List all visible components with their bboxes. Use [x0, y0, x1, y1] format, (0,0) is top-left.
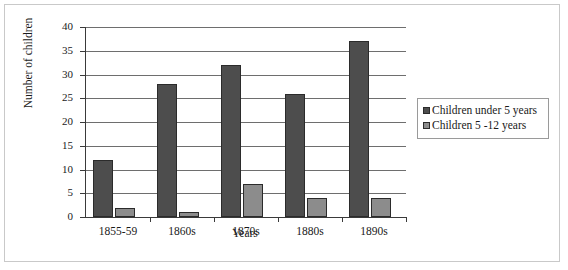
y-axis-tick-label: 25: [43, 92, 73, 103]
y-axis-tick-label: 40: [43, 21, 73, 32]
legend-swatch-icon: [423, 122, 430, 129]
chart-frame: Number of children 4035302520151050 1855…: [4, 4, 560, 262]
chart-legend: Children under 5 years Children 5 -12 ye…: [417, 98, 549, 139]
x-axis-tick-mark: [150, 217, 151, 222]
x-axis-tick-mark: [214, 217, 215, 222]
bar: [307, 198, 327, 217]
bar: [285, 94, 305, 218]
plot-area: 1855-591860s1870s1880s1890s: [85, 27, 406, 218]
bar: [349, 41, 369, 217]
x-axis-title: Years: [85, 227, 405, 239]
y-axis-tick-label: 15: [43, 140, 73, 151]
bar: [371, 198, 391, 217]
bar: [93, 160, 113, 217]
bar: [115, 208, 135, 218]
y-axis-title: Number of children: [22, 0, 34, 138]
y-axis-tick-label: 35: [43, 45, 73, 56]
legend-item-label: Children under 5 years: [432, 103, 537, 118]
y-axis-tick-label: 30: [43, 69, 73, 80]
y-axis-tick-label: 0: [43, 211, 73, 222]
bar: [157, 84, 177, 217]
x-axis-tick-mark: [278, 217, 279, 222]
legend-item: Children under 5 years: [423, 103, 543, 118]
gridline: [86, 27, 406, 28]
legend-item-label: Children 5 -12 years: [432, 118, 526, 133]
bar: [243, 184, 263, 217]
legend-item: Children 5 -12 years: [423, 118, 543, 133]
x-axis-tick-mark: [406, 217, 407, 222]
y-axis-tick-label: 20: [43, 116, 73, 127]
bar: [179, 212, 199, 217]
legend-swatch-icon: [423, 107, 430, 114]
y-axis-tick-label: 5: [43, 187, 73, 198]
y-axis-tick-label: 10: [43, 164, 73, 175]
x-axis-tick-mark: [342, 217, 343, 222]
bar: [221, 65, 241, 217]
